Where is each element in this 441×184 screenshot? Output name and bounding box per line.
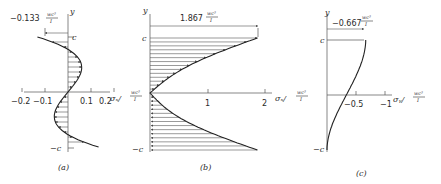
panel-b-y-label: y [142, 6, 148, 15]
panel-b: y c −c 1.867 wc³ I 1 2 σₓ/ wc³ I (b) [132, 6, 308, 172]
panel-a-minus-c-label: −c [50, 144, 62, 153]
panel-b-stress-curve [150, 38, 257, 150]
stress-distribution-diagram: y c −c −0.133 wc³ I −0.2 −0.1 0.1 0.2 σₓ… [0, 0, 441, 184]
panel-a-tick-label: −0.1 [33, 97, 52, 106]
panel-a-tick-label: −0.2 [11, 97, 30, 106]
panel-c-tick-label: −0.5 [344, 100, 363, 109]
panel-c-x-unit-num: wc³ [414, 90, 423, 96]
panel-c-annotation-value: −0.667 [332, 19, 362, 28]
panel-b-c-label: c [142, 34, 147, 43]
panel-a-x-label: σₓ/ [110, 94, 122, 103]
panel-b-annotation-unit-den: I [209, 17, 213, 23]
panel-c-minus-c-label: −c [313, 145, 325, 154]
panel-b-x-unit-num: wc³ [297, 89, 306, 95]
panel-c-x-label: σᵧ/ [393, 95, 405, 104]
panel-a-x-unit-den: I [133, 96, 137, 102]
panel-c-tick-label: −1 [380, 100, 392, 109]
panel-b-minus-c-label: −c [132, 145, 144, 154]
panel-a-caption: (a) [58, 163, 69, 172]
panel-a-y-label: y [69, 7, 75, 16]
panel-c: y c −c −0.667 wc³ I −0.5 −1 σᵧ/ wc³ I (c… [313, 8, 425, 178]
panel-a-tick-label: 0.1 [80, 97, 93, 106]
panel-a-annotation-value: −0.133 [10, 14, 40, 23]
panel-b-caption: (b) [200, 163, 211, 172]
panel-b-tick-label: 1 [205, 99, 210, 108]
panel-c-annotation-unit-den: I [364, 21, 368, 27]
panel-c-x-unit-den: I [416, 97, 420, 103]
panel-a-annotation-unit-den: I [49, 18, 53, 24]
panel-c-c-label: c [320, 36, 325, 45]
panel-a: y c −c −0.133 wc³ I −0.2 −0.1 0.1 0.2 σₓ… [10, 7, 142, 172]
panel-b-annotation-unit-num: wc³ [207, 10, 216, 16]
panel-a-x-unit-num: wc³ [131, 89, 140, 95]
panel-a-c-label: c [72, 33, 77, 42]
panel-c-y-label: y [324, 8, 330, 17]
panel-c-caption: (c) [356, 169, 367, 178]
panel-b-annotation-value: 1.867 [180, 14, 203, 23]
panel-b-x-label: σₓ/ [275, 94, 287, 103]
panel-a-annotation-unit-num: wc³ [47, 11, 56, 17]
panel-b-stress-arrows [150, 38, 257, 150]
panel-c-annotation-unit-num: wc³ [362, 14, 371, 20]
panel-b-x-unit-den: I [299, 96, 303, 102]
panel-b-tick-label: 2 [262, 99, 267, 108]
